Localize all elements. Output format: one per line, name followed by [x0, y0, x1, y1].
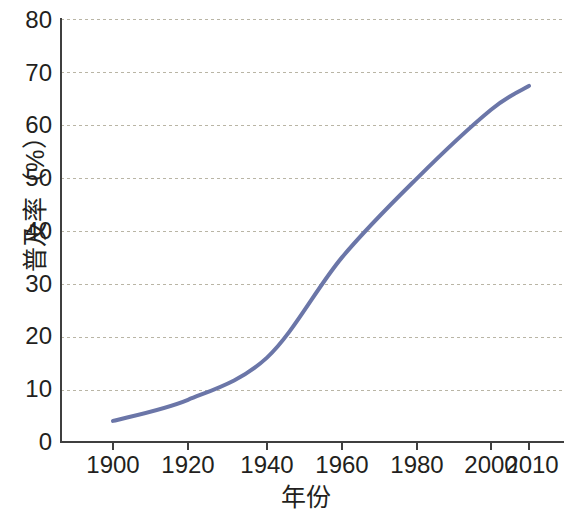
axes	[60, 18, 564, 443]
series-line	[113, 86, 529, 421]
gridlines	[61, 20, 564, 391]
x-tick-label-1980: 1980	[390, 452, 443, 478]
line-chart: 80 70 60 50 40 30 20 10 0 普及率（%）	[0, 0, 564, 511]
x-axis-title-text: 年份	[281, 477, 331, 511]
x-tick-label-1960: 1960	[315, 452, 368, 478]
x-tick-label-1920: 1920	[161, 452, 214, 478]
x-tick-label-2010: 2010	[505, 452, 558, 478]
x-tick-label-1900: 1900	[86, 452, 139, 478]
plot-area	[0, 0, 564, 511]
data-series-popularity-rate	[113, 86, 529, 421]
x-axis-ticks	[113, 442, 529, 450]
x-tick-label-1940: 1940	[240, 452, 293, 478]
x-axis-title: 年份	[0, 477, 564, 511]
